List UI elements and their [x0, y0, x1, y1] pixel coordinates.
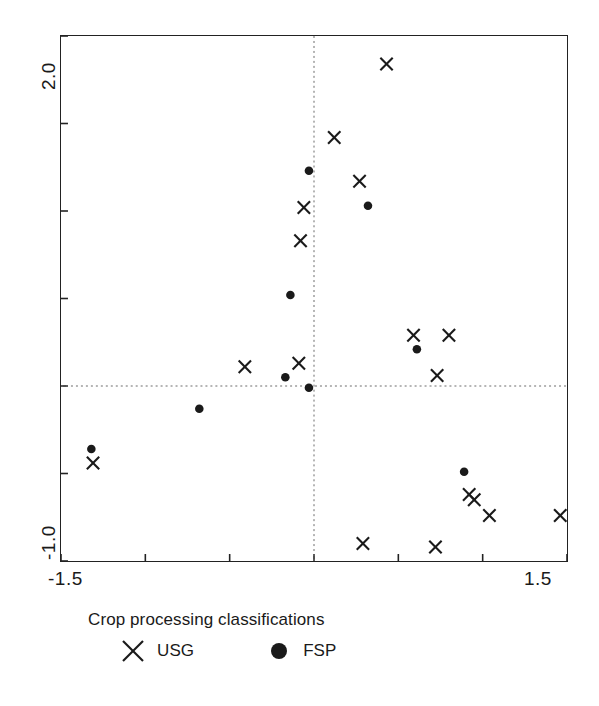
data-point-fsp	[305, 383, 314, 392]
data-point-usg	[298, 201, 310, 213]
data-point-usg	[353, 175, 365, 187]
data-point-fsp	[413, 345, 422, 354]
data-point-fsp	[364, 201, 373, 210]
legend-label-fsp: FSP	[303, 641, 336, 661]
reference-lines	[61, 36, 567, 561]
data-point-fsp	[460, 467, 469, 476]
axis-ticks	[61, 36, 567, 561]
y-axis-label-top: 2.0	[38, 62, 60, 90]
plot-canvas	[61, 36, 567, 561]
legend: Crop processing classifications USG FSP	[88, 610, 508, 666]
data-point-usg	[357, 537, 369, 549]
legend-label-usg: USG	[157, 641, 194, 661]
data-point-usg	[87, 457, 99, 469]
data-point-usg	[407, 329, 419, 341]
legend-entry-fsp: FSP	[264, 636, 336, 666]
plot-frame	[60, 35, 568, 562]
data-point-usg	[429, 541, 441, 553]
data-point-usg	[483, 509, 495, 521]
x-marker-icon	[118, 636, 148, 666]
data-point-fsp	[305, 166, 314, 175]
data-point-fsp	[87, 445, 96, 454]
data-point-fsp	[195, 404, 204, 413]
y-axis-label-bottom: -1.0	[38, 525, 60, 560]
data-point-usg	[328, 131, 340, 143]
circle-marker-icon	[264, 636, 294, 666]
data-points	[87, 58, 567, 553]
data-point-usg	[293, 357, 305, 369]
data-point-usg	[554, 509, 566, 521]
data-point-usg	[443, 329, 455, 341]
x-axis-label-right: 1.5	[524, 568, 552, 590]
legend-entry-usg: USG	[118, 636, 194, 666]
data-point-fsp	[286, 291, 295, 300]
x-axis-label-left: -1.5	[48, 568, 83, 590]
data-point-usg	[431, 369, 443, 381]
data-point-usg	[380, 58, 392, 70]
data-point-usg	[294, 235, 306, 247]
data-point-usg	[239, 361, 251, 373]
legend-entries: USG FSP	[118, 636, 508, 666]
data-point-usg	[468, 494, 480, 506]
scatter-plot-figure: 2.0 -1.0 -1.5 1.5 Crop processing classi…	[0, 0, 599, 706]
legend-title: Crop processing classifications	[88, 610, 508, 630]
data-point-fsp	[281, 373, 290, 382]
